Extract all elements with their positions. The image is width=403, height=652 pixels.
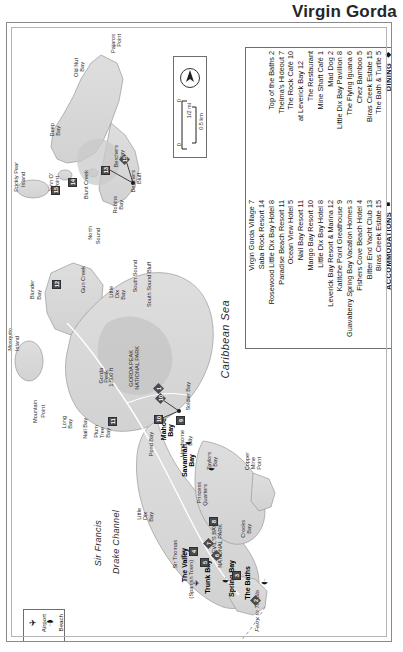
- map-label-place: Quarters: [202, 484, 208, 506]
- beach-umbrella-icon: ☂: [46, 618, 54, 628]
- beach-icon-trunk: ☂: [220, 575, 229, 584]
- dining-item[interactable]: Little Dix Bay Pavillion 8: [335, 51, 345, 129]
- accommodation-item[interactable]: Guavaberry Spring Bay Vacation Homes 3: [345, 200, 355, 337]
- accommodation-item[interactable]: Nail Bay Resort 11: [296, 200, 306, 260]
- map-label-place: Bay: [120, 290, 126, 300]
- map-label-town: Savannah: [181, 444, 188, 477]
- dining-list: DINING ◆The Bath & Turtle 5Biras Creek E…: [267, 51, 391, 197]
- dining-item[interactable]: The Restaurant: [306, 51, 316, 101]
- key-row-beach: ☂ Beach: [46, 614, 64, 632]
- map-label-place: Blunder: [29, 280, 35, 299]
- map-label-town: Bay: [167, 424, 174, 437]
- map-marker-15[interactable]: 15: [51, 186, 60, 195]
- dining-heading: DINING ◆: [384, 51, 391, 91]
- map-label-place: Blunt Creek: [83, 170, 89, 199]
- dining-item[interactable]: Mine Shaft Café 1: [316, 51, 326, 109]
- map-label-place: Bay: [36, 290, 42, 300]
- dining-item[interactable]: The Rock Café 10: [286, 51, 296, 110]
- map-label-place: Point: [256, 457, 262, 470]
- map-label-place: Bay: [79, 62, 85, 72]
- map-label-place: Pond Bay: [148, 432, 154, 456]
- map-label-place: Point: [116, 34, 122, 47]
- map-label-place: Point: [40, 405, 46, 418]
- map-label-place: Bay: [118, 200, 124, 210]
- map-label-place: South Sound Bluff: [146, 262, 152, 307]
- map-label-place: South Sound: [132, 260, 138, 292]
- dining-item[interactable]: at Leverick Bay 12: [296, 61, 306, 121]
- map-label-place: Gun Creek: [80, 266, 86, 293]
- map-canvas[interactable]: PajarosPointOld NutBayDeepBayBerchersBay…: [7, 23, 391, 641]
- map-label-place: Bluff: [136, 173, 142, 184]
- beach-icon-baths: ☂: [259, 577, 268, 586]
- accommodations-list: ACCOMMODATIONS ■Biras Creek Estate 15Bit…: [247, 200, 391, 346]
- dining-item[interactable]: The Bath & Turtle 5: [374, 51, 384, 114]
- beach-icon-savannah: ☂: [206, 463, 215, 472]
- map-label-water: Sir Francis: [93, 520, 103, 566]
- map-label-town: The Valley: [181, 548, 188, 582]
- scale-zero-right: 0: [176, 143, 182, 146]
- map-marker-4[interactable]: 4: [189, 547, 198, 556]
- map-label-place: Sound: [95, 228, 101, 244]
- scale-km-label: 0.5 km: [198, 113, 204, 130]
- page-title: Virgin Gorda: [292, 2, 397, 22]
- map-label-place: Island: [20, 172, 26, 187]
- map-label-town: Bay: [188, 454, 195, 467]
- map-marker-3[interactable]: 3: [232, 571, 241, 580]
- accommodation-item[interactable]: Virgin Gorda Village 7: [247, 200, 257, 271]
- map-label-place: Prickly Pear: [13, 162, 19, 192]
- map-label-place: Bay: [148, 512, 154, 522]
- accommodation-item[interactable]: Leverick Bay Resort & Marina 12: [326, 200, 336, 307]
- map-marker-12[interactable]: 12: [52, 280, 61, 289]
- accommodation-item[interactable]: Ocean View Hotel 5: [286, 200, 296, 264]
- map-label-place: 1,500 ft: [108, 368, 114, 387]
- accommodation-item[interactable]: Fishers Cove Beach Hotel 4: [355, 200, 365, 291]
- accommodation-item[interactable]: Saba Rock Resort 14: [257, 200, 267, 269]
- dining-item[interactable]: The Flying Iguana 6: [345, 51, 355, 116]
- map-label-place: Bay: [105, 428, 111, 438]
- accommodation-item[interactable]: Katitche Point Greathouse 9: [335, 200, 345, 291]
- key-label-beach: Beach: [57, 614, 64, 632]
- scale-zero-left: 0: [176, 99, 182, 102]
- dining-item[interactable]: Mad Dog 2: [326, 51, 336, 87]
- accommodation-item[interactable]: Biras Creek Estate 15: [374, 200, 384, 271]
- map-marker-14[interactable]: 14: [68, 178, 77, 187]
- airplane-icon: ✈: [29, 618, 37, 628]
- airport-icon-valley: ✈: [193, 579, 200, 588]
- compass-rose-icon: [179, 67, 201, 89]
- dining-item[interactable]: Thelma's Hideout 7: [277, 51, 287, 114]
- map-label-place: Bay: [55, 126, 61, 136]
- map-label-place: Soldier Bay: [185, 382, 191, 411]
- key-row-airport: ✈ Airport: [29, 614, 47, 632]
- dining-item[interactable]: Top of the Baths 2: [267, 51, 277, 110]
- beach-icon-mahoe: ☂: [183, 437, 192, 446]
- map-marker-13[interactable]: 13: [101, 166, 110, 175]
- map-label-place: North: [87, 226, 93, 240]
- dining-item[interactable]: Biras Creek Estate 15: [365, 51, 375, 122]
- map-marker-8[interactable]: 8: [209, 517, 218, 526]
- map-marker-10[interactable]: 10: [154, 415, 163, 424]
- map-label-water: Drake Channel: [111, 510, 121, 574]
- map-label-place: Mountain: [32, 400, 38, 423]
- map-label-water: Caribbean Sea: [219, 300, 231, 379]
- accommodation-item[interactable]: Paradise Beach Resort 11: [277, 200, 287, 285]
- dining-item[interactable]: Chez Bamboo 5: [355, 51, 365, 103]
- map-label-place: Nail Bay: [82, 418, 88, 439]
- map-label-place: Island: [14, 336, 20, 351]
- map-label-place: Mosquito: [7, 328, 13, 351]
- map-label-place: Sir Thomas: [172, 540, 178, 569]
- accommodation-item[interactable]: Mango Bay Resort 10: [306, 200, 316, 271]
- accommodation-item[interactable]: Rosewood Little Dix Bay Hotel 8: [267, 200, 277, 304]
- map-marker-9[interactable]: 9: [176, 416, 185, 425]
- legend-panel: DINING ◆The Bath & Turtle 5Biras Creek E…: [245, 47, 391, 349]
- map-label-town: The Baths: [244, 566, 251, 600]
- map-marker-11[interactable]: 11: [108, 417, 117, 426]
- map-key: ✈ Airport ☂ Beach: [23, 609, 65, 641]
- map-label-place: NATIONAL PARK: [217, 524, 223, 568]
- accommodation-item[interactable]: Little Dix Bay Hotel 8: [316, 200, 326, 268]
- map-marker-5[interactable]: 5: [200, 558, 209, 567]
- scale-miles-label: 1/2 mi: [186, 103, 192, 118]
- map-label-place: Bay: [67, 419, 73, 429]
- compass-scale-box: 0 0 1/2 mi 0.5 km: [173, 56, 207, 158]
- accommodation-item[interactable]: Bitter End Yacht Club 13: [365, 200, 375, 279]
- map-label-place: Bay: [246, 524, 252, 534]
